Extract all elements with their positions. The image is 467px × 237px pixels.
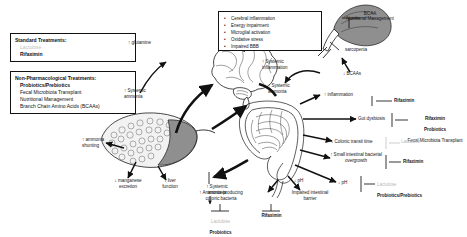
treatment-ph-lactulose: Lactulose	[377, 182, 422, 188]
treatment-bcaas: Branch Chain Amino Acids (BCAAs)	[15, 103, 131, 110]
arrow-colonic-transit	[303, 135, 332, 141]
treatment-sibo-rifaximin: Rifaximin	[403, 159, 423, 165]
treatment-inflammation-rifaximin: Rifaximin	[394, 98, 414, 104]
arrow-gut-to-liver	[214, 160, 248, 177]
treatment-bacteria-probiotics: Probiotics	[198, 230, 243, 236]
bcaa-management-text: BCAA Nutritional Management	[346, 11, 394, 22]
non-pharmacological-treatments-box: Non-Pharmacological Treatments: Probioti…	[10, 71, 136, 114]
cerebral-effects-box: Cerebral inflammation Energy impairment …	[218, 11, 322, 51]
effect-impaired-bbb: Impaired BBB	[222, 43, 318, 50]
treatment-bacteria-lactulose: Lactulose	[198, 219, 243, 225]
arrow-systemic-inflammation	[285, 71, 320, 83]
treatment-dysbiosis-probiotics: Probiotics	[404, 127, 466, 133]
treatment-probiotics-prebiotics: Probiotics/Prebiotics	[15, 82, 131, 89]
brain-illustration	[212, 43, 277, 109]
effect-cerebral-inflammation: Cerebral inflammation	[222, 15, 318, 22]
non-pharmacological-header: Non-Pharmacological Treatments:	[15, 75, 131, 82]
arrow-bcaas	[342, 58, 350, 72]
arrow-inflammation	[300, 95, 320, 104]
treatment-bacteria-group: Lactulose Probiotics	[198, 213, 243, 237]
treatment-ph-probiotics-prebiotics: Probiotics/Prebiotics	[377, 193, 422, 199]
standard-treatments-box: Standard Treatments: Lactulose Rifaximin	[10, 33, 136, 62]
label-systemic-ammonia-left: ↑ Systemic ammonia	[124, 88, 146, 99]
label-ammonia-shunting: ↑ ammonia shunting	[82, 137, 104, 148]
effect-oxidative-stress: Oxidative stress	[222, 36, 318, 43]
label-systemic-ammonia-liver: ↑ Systemic ammonia	[196, 184, 238, 195]
standard-treatments-header: Standard Treatments:	[15, 37, 131, 44]
label-sarcopenia: sarcopenia	[345, 47, 367, 53]
standard-treatment-rifaximin: Rifaximin	[15, 51, 131, 58]
standard-treatment-lactulose: Lactulose	[15, 44, 131, 51]
label-systemic-inflammation: ↑ Systemic inflammation	[262, 59, 287, 70]
label-bcaa-nutritional-management: BCAA Nutritional Management	[325, 5, 415, 22]
cerebral-effects-list: Cerebral inflammation Energy impairment …	[222, 15, 318, 50]
label-bcaas-decreased: ↓ BCAAs	[343, 71, 361, 77]
treatment-fecal-microbiota-transplant: Fecal Microbiota Transplant	[15, 89, 131, 96]
arrow-liver-to-gut	[212, 106, 246, 129]
treatment-transit-lactulose: Lactulose	[401, 139, 420, 145]
label-ph-right: ↓ pH	[338, 180, 347, 186]
label-colonic-transit-time: ↓ Colonic transit time	[331, 139, 373, 145]
treatment-barrier-rifaximin: Rifaximin	[249, 213, 294, 219]
hepatic-encephalopathy-diagram: Standard Treatments: Lactulose Rifaximin…	[0, 0, 467, 237]
treatment-dysbiosis-rifaximin: Rifaximin	[404, 116, 466, 122]
label-liver-function: ↓ liver function	[153, 178, 187, 189]
label-inflammation: ↑ inflammation	[324, 92, 353, 98]
label-gut-dysbiosis: Gut dysbiosis	[358, 116, 385, 122]
treatment-ph-group: Lactulose Probiotics/Prebiotics	[377, 176, 422, 204]
liver-illustration	[102, 113, 215, 168]
label-impaired-intestinal-barrier: Impaired intestinal barrier	[282, 190, 338, 201]
effect-energy-impairment: Energy impairment	[222, 22, 318, 29]
effect-microglial-activation: Microglial activation	[222, 29, 318, 36]
label-sibo: ↑ Small intestinal bacterial overgrowth	[326, 152, 386, 163]
label-glutamine: ↑ glutamine	[128, 40, 151, 46]
label-systemic-ammonia-mid: ↑ Systemic ammonia	[268, 83, 290, 94]
label-ph-center: ↓ pH	[294, 178, 303, 184]
label-manganese-excretion: ↓ manganese excretion	[104, 178, 152, 189]
arrow-muscle-sarcopenia	[330, 42, 339, 50]
treatment-nutritional-management: Nutritional Management	[15, 96, 131, 103]
